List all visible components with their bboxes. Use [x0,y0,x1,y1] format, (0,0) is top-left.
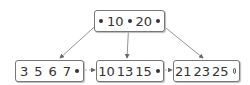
leaf-node-3: 21 23 25 [173,60,240,82]
leaf-key: 5 [34,64,42,79]
root-key: 20 [136,14,153,29]
leaf-key: 21 [175,64,192,79]
pointer-dot-icon [128,19,132,23]
leaf-key: 23 [194,64,211,79]
root-node: 10 20 [94,10,165,32]
root-key: 10 [107,14,124,29]
leaf-key: 7 [63,64,71,79]
next-pointer-icon [75,69,79,73]
leaf-key: 6 [49,64,57,79]
leaf-key: 13 [117,64,134,79]
leaf-node-2: 10 13 15 [96,60,164,82]
null-pointer-icon [233,68,236,74]
pointer-dot-icon [99,19,103,23]
leaf-node-1: 3 5 6 7 [15,60,84,82]
pointer-dot-icon [156,19,160,23]
next-pointer-icon [156,69,160,73]
leaf-key: 3 [20,64,28,79]
leaf-key: 25 [212,64,229,79]
leaf-key: 15 [135,64,152,79]
leaf-key: 10 [98,64,115,79]
